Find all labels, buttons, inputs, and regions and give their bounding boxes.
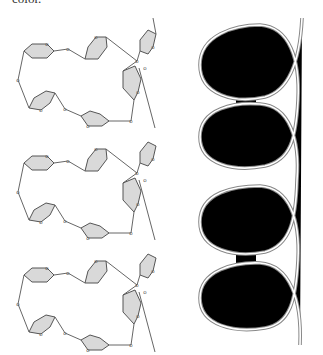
macrocycle-unit-1: [16, 30, 156, 129]
macrocycle-unit-3: [16, 254, 156, 353]
helix: [200, 18, 302, 345]
macrocycle-unit-2: [16, 142, 156, 241]
macrocycle-chain: [16, 18, 156, 353]
figure-canvas: o o o o o o o o o o o o: [0, 0, 323, 355]
